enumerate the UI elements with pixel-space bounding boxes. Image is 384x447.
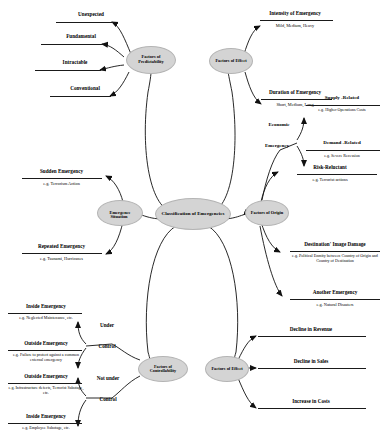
- label-economic: Economic: [250, 122, 308, 127]
- rule-demand-related: [306, 150, 380, 151]
- node-emergence-situation[interactable]: Emergence: [97, 200, 143, 226]
- node-factors-of-predictability[interactable]: Factors of Predictability: [126, 46, 176, 74]
- node-factors-of-origin[interactable]: Factors of Origin: [245, 200, 289, 226]
- rule-inside-emergency-2: [8, 423, 82, 424]
- node-factors-of-effect-top[interactable]: Factors of Effect: [209, 48, 253, 74]
- label-fundamental: Fundamental: [36, 33, 126, 39]
- label-intensity-of-emergency: Intensity of Emergency: [240, 10, 350, 16]
- example-intensity: Mild, Medium, Heavy: [240, 23, 350, 28]
- example-inside-emergency-1: e.g. Neglected Maintenance, etc.: [6, 316, 86, 321]
- rule-outside-emergency-2: [8, 383, 82, 384]
- label-outside-emergency-2: Outside Emergency: [6, 373, 86, 379]
- node-emergence-situation-label-2: Situation: [97, 214, 141, 219]
- example-outside-emergency-2: e.g. Infrastructure defects, Terrorist S…: [6, 386, 86, 395]
- rule-sudden-emergency: [22, 178, 102, 179]
- label-outside-emergency-1: Outside Emergency: [6, 340, 86, 346]
- label-repeated-emergency: Repeated Emergency: [14, 243, 109, 249]
- node-factors-of-origin-label: Factors of Origin: [249, 211, 285, 216]
- label-increase-in-costs: Increase in Costs: [256, 398, 366, 404]
- example-destination-image-damage: e.g. Political Enmity between Country of…: [288, 254, 382, 263]
- label-destination-image-damage: Destination' Image Damage: [286, 241, 384, 247]
- mindmap-canvas: Classification of Emergencies Factors of…: [0, 0, 384, 447]
- rule-intensity: [260, 20, 333, 21]
- label-control-2: Control: [82, 396, 134, 402]
- label-unexpected: Unexpected: [46, 11, 136, 17]
- rule-supply-related: [306, 105, 380, 106]
- rule-unexpected: [56, 22, 113, 23]
- label-conventional: Conventional: [40, 85, 130, 91]
- example-another-emergency: e.g. Natural Disasters: [286, 302, 384, 307]
- example-inside-emergency-2: e.g. Employee Sabotage, etc.: [6, 426, 86, 431]
- rule-decline-in-revenue: [258, 336, 366, 337]
- label-inside-emergency-2: Inside Emergency: [6, 413, 86, 419]
- example-repeated-emergency: e.g. Tsunami, Hurricanes: [14, 256, 109, 261]
- label-supply-related: Supply -Related: [300, 95, 384, 100]
- label-inside-emergency-1: Inside Emergency: [6, 303, 86, 309]
- rule-increase-in-costs: [258, 408, 366, 409]
- label-control-1: Control: [82, 343, 132, 349]
- example-supply-related: e.g. Higher Operations Costs: [302, 108, 382, 113]
- label-intractable: Intractable: [30, 59, 120, 65]
- rule-decline-in-sales: [258, 368, 366, 369]
- label-another-emergency: Another Emergency: [286, 289, 384, 295]
- rule-inside-emergency-1: [8, 313, 82, 314]
- node-factors-of-effect-bottom-label: Factors of Effect: [209, 367, 244, 372]
- rule-conventional: [50, 96, 111, 97]
- example-risk-reluctant-text: e.g. Terrorist actions: [280, 177, 380, 182]
- label-decline-in-revenue: Decline in Revenue: [256, 326, 366, 332]
- node-center-label: Classification of Emergencies: [160, 211, 227, 216]
- example-outside-emergency-1: e.g. Failure to protect against a common…: [6, 353, 86, 362]
- example-demand-related: e.g. Severe Recession: [300, 153, 384, 158]
- label-risk-reluctant: Risk-Reluctant: [280, 164, 380, 170]
- label-not-under: Not under: [82, 375, 134, 381]
- rule-destination-image-damage: [290, 251, 380, 252]
- node-center[interactable]: Classification of Emergencies: [155, 198, 231, 230]
- label-economic-emergency: Emergency: [248, 143, 306, 148]
- node-factors-of-effect-bottom[interactable]: Factors of Effect: [205, 356, 249, 382]
- rule-repeated-emergency: [22, 253, 102, 254]
- rule-intractable: [35, 70, 101, 71]
- node-factors-of-effect-top-label: Factors of Effect: [213, 59, 248, 64]
- node-factors-of-controllability-label: Factors of Controllability: [139, 365, 187, 374]
- rule-risk-reluctant: [297, 174, 377, 175]
- node-factors-of-predictability-label: Factors of Predictability: [127, 55, 175, 64]
- rule-another-emergency: [290, 299, 380, 300]
- rule-outside-emergency-1: [8, 350, 82, 351]
- example-sudden-emergency: e.g. Terrorism Action: [14, 181, 109, 186]
- label-under: Under: [82, 322, 132, 328]
- node-factors-of-controllability[interactable]: Factors of Controllability: [138, 356, 188, 382]
- label-demand-related: Demand -Related: [300, 140, 384, 145]
- rule-fundamental: [41, 44, 103, 45]
- label-decline-in-sales: Decline in Sales: [256, 358, 366, 364]
- label-sudden-emergency: Sudden Emergency: [14, 168, 109, 174]
